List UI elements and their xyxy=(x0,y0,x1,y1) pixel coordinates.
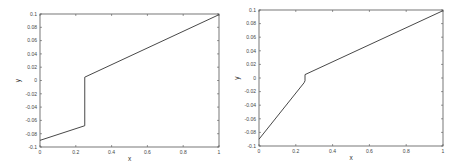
series-line xyxy=(259,11,443,140)
y-tick-label: 0.1 xyxy=(249,7,256,13)
y-tick-label: 0.02 xyxy=(246,61,256,67)
y-tick-label: 0 xyxy=(253,75,256,81)
y-tick-label: 0.08 xyxy=(246,20,256,26)
x-tick-label: 0.2 xyxy=(292,148,299,154)
plot-frame xyxy=(40,14,219,147)
y-tick-label: -0.04 xyxy=(245,102,257,108)
x-tick-label: 0.4 xyxy=(108,149,115,155)
y-tick-label: -0.04 xyxy=(26,104,38,110)
y-tick-label: -0.02 xyxy=(245,88,257,94)
series-line xyxy=(40,15,219,141)
y-tick-label: 0.1 xyxy=(30,11,37,17)
y-tick-label: 0.06 xyxy=(27,37,37,43)
y-tick-label: -0.02 xyxy=(26,91,38,97)
y-axis-label: y xyxy=(233,76,241,80)
x-axis-label: x xyxy=(349,154,353,161)
x-tick-label: 0.4 xyxy=(329,148,336,154)
y-tick-label: 0 xyxy=(34,77,37,83)
x-tick-label: 0.6 xyxy=(144,149,151,155)
figure: 00.20.40.60.81-0.1-0.08-0.06-0.04-0.0200… xyxy=(0,0,460,166)
y-tick-label: -0.1 xyxy=(28,144,37,150)
x-tick-label: 1 xyxy=(442,148,445,154)
y-tick-label: -0.1 xyxy=(247,143,256,149)
x-tick-label: 0 xyxy=(258,148,261,154)
x-tick-label: 1 xyxy=(218,149,221,155)
chart-2: 00.20.40.60.81-0.1-0.08-0.06-0.04-0.0200… xyxy=(233,7,445,161)
y-tick-label: 0.04 xyxy=(27,51,37,57)
y-axis-label: y xyxy=(14,78,22,82)
x-tick-label: 0.8 xyxy=(180,149,187,155)
x-axis-label: x xyxy=(128,155,132,162)
y-tick-label: 0.02 xyxy=(27,64,37,70)
x-tick-label: 0.2 xyxy=(72,149,79,155)
y-tick-label: 0.08 xyxy=(27,24,37,30)
y-tick-label: -0.06 xyxy=(245,116,257,122)
x-tick-label: 0.6 xyxy=(366,148,373,154)
y-tick-label: -0.06 xyxy=(26,117,38,123)
y-tick-label: 0.04 xyxy=(246,48,256,54)
y-tick-label: 0.06 xyxy=(246,34,256,40)
x-tick-label: 0.8 xyxy=(403,148,410,154)
plot-frame xyxy=(259,10,443,146)
y-tick-label: -0.08 xyxy=(245,129,257,135)
x-tick-label: 0 xyxy=(39,149,42,155)
y-tick-label: -0.08 xyxy=(26,131,38,137)
chart-1: 00.20.40.60.81-0.1-0.08-0.06-0.04-0.0200… xyxy=(14,11,221,162)
